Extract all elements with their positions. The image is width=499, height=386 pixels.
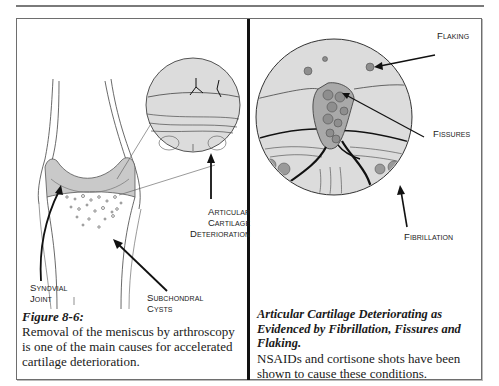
subchondral-cysts-dots [66,195,122,229]
label-fissures: Fissures [433,128,470,139]
caption-body: NSAIDs and cortisone shots have been sho… [257,351,460,381]
label-line: Joint [30,293,67,304]
label-line: Synovial [30,282,67,293]
left-panel-knee-joint: Articular Cartilage Deterioration Synovi… [17,19,247,379]
label-flaking: Flaking [437,30,469,41]
right-panel-cartilage-damage: Flaking Fissures Fibrillation Articular … [250,19,482,379]
top-rule [16,5,484,7]
label-articular-cartilage-deterioration: Articular Cartilage Deterioration [190,206,250,239]
label-fibrillation: Fibrillation [404,231,453,242]
caption-title: Articular Cartilage Deteriorating as Evi… [257,307,477,351]
label-line: Deterioration [190,228,250,239]
cartilage-damage-illustration [250,19,482,289]
figure-caption-left: Figure 8-6: Removal of the meniscus by a… [22,309,244,369]
label-line: Subchondral [147,292,203,303]
label-line: Articular [190,206,250,217]
caption-body: Removal of the meniscus by arthroscopy i… [22,324,235,369]
knee-joint-illustration [17,19,247,309]
label-synovial-joint: Synovial Joint [30,282,67,304]
label-line: Cartilage [190,217,250,228]
figure-number: Figure 8-6: [22,309,244,324]
figure-caption-right: Articular Cartilage Deteriorating as Evi… [257,307,477,381]
cartilage-zoom-circle [146,58,240,152]
